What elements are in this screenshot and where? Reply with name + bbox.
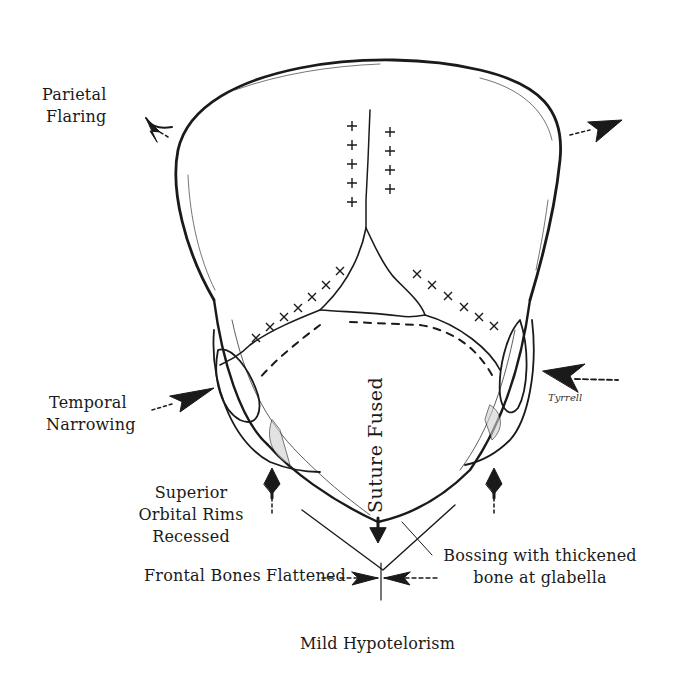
temporal-narrowing-line1: Temporal: [46, 392, 136, 414]
frontal-bones-flattened-label: Frontal Bones Flattened: [144, 565, 346, 587]
bossing-line2: bone at glabella: [432, 567, 648, 589]
sagittal-suture: [366, 110, 370, 228]
sagittal-plus-markers-left: [347, 121, 357, 207]
temporal-arrow-right: [575, 379, 618, 380]
temporal-narrowing-line2: Narrowing: [46, 414, 136, 436]
dashed-frontal-boundary: [258, 322, 492, 380]
superior-orbital-rims-label: Superior Orbital Rims Recessed: [128, 482, 254, 548]
bossing-leader: [402, 522, 432, 555]
parietal-flaring-line2: Flaring: [42, 106, 107, 128]
parietal-arrow-right: [570, 130, 590, 135]
coronal-x-markers-right: [413, 270, 498, 330]
fontanelle: [366, 228, 425, 315]
skull-outline: [176, 60, 561, 300]
bossing-line1: Bossing with thickened: [432, 545, 648, 567]
suture-fused-label: Suture Fused: [364, 377, 386, 513]
right-temporal-fossa: [500, 320, 527, 412]
mild-hypotelorism-label: Mild Hypotelorism: [300, 633, 455, 655]
superior-orbital-line1: Superior: [128, 482, 254, 504]
artist-signature: Tyrrell: [548, 392, 582, 403]
temporal-arrow-left: [152, 404, 172, 410]
temporal-narrowing-label: Temporal Narrowing: [46, 392, 136, 436]
parietal-flaring-line1: Parietal: [42, 84, 107, 106]
skull-diagram: Parietal Flaring Temporal Narrowing Supe…: [0, 0, 684, 677]
bossing-label: Bossing with thickened bone at glabella: [432, 545, 648, 589]
superior-orbital-line3: Recessed: [128, 526, 254, 548]
sagittal-plus-markers-right: [385, 127, 395, 194]
superior-orbital-line2: Orbital Rims: [128, 504, 254, 526]
parietal-flaring-label: Parietal Flaring: [42, 84, 107, 128]
